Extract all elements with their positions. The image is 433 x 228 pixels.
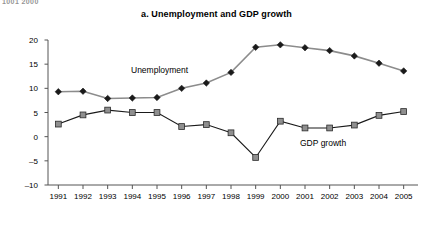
x-tick-label-1991: 1991 xyxy=(49,192,67,201)
x-tick-label-2004: 2004 xyxy=(370,192,388,201)
data-point-1995 xyxy=(154,110,160,116)
x-axis-tick-labels: 1991199219931994199519961997199819992000… xyxy=(48,192,418,206)
data-point-1997 xyxy=(203,80,209,86)
x-tick-label-2005: 2005 xyxy=(395,192,413,201)
x-tick-label-1999: 1999 xyxy=(247,192,265,201)
x-tick-label-1998: 1998 xyxy=(222,192,240,201)
y-tick-label-0: 0 xyxy=(34,132,38,141)
series-label-gdp-growth: GDP growth xyxy=(300,138,346,148)
data-point-2003 xyxy=(351,53,357,59)
data-point-2001 xyxy=(302,125,308,131)
data-point-1993 xyxy=(105,107,111,113)
data-point-1998 xyxy=(228,130,234,136)
data-point-2004 xyxy=(376,113,382,119)
data-point-2005 xyxy=(400,68,406,74)
plot-area xyxy=(48,40,418,185)
data-point-2002 xyxy=(326,47,332,53)
chart-title: a. Unemployment and GDP growth xyxy=(0,9,433,19)
data-point-2002 xyxy=(327,125,333,131)
data-point-1992 xyxy=(80,112,86,118)
data-point-1995 xyxy=(154,94,160,100)
data-point-1993 xyxy=(104,95,110,101)
data-point-1992 xyxy=(80,88,86,94)
y-tick-label--5: –5 xyxy=(29,156,38,165)
chart-figure: 1001 2000 a. Unemployment and GDP growth… xyxy=(0,0,433,228)
x-tick-label-1996: 1996 xyxy=(173,192,191,201)
data-point-2001 xyxy=(302,45,308,51)
data-point-2000 xyxy=(277,42,283,48)
y-axis-tick-labels: 20151050–5–10 xyxy=(14,40,38,185)
data-point-1991 xyxy=(55,89,61,95)
data-point-1994 xyxy=(129,95,135,101)
series-label-unemployment: Unemployment xyxy=(131,65,188,75)
data-point-1996 xyxy=(178,85,184,91)
data-point-1996 xyxy=(179,124,185,130)
data-point-2005 xyxy=(401,109,407,115)
x-tick-label-2001: 2001 xyxy=(296,192,314,201)
data-point-1999 xyxy=(253,155,259,161)
y-tick-label-15: 15 xyxy=(29,60,38,69)
x-tick-label-2000: 2000 xyxy=(271,192,289,201)
x-tick-label-2003: 2003 xyxy=(345,192,363,201)
data-point-2003 xyxy=(351,122,357,128)
y-tick-label--10: –10 xyxy=(25,181,38,190)
series-gdp-growth xyxy=(55,107,406,160)
x-tick-label-1992: 1992 xyxy=(74,192,92,201)
x-tick-label-1997: 1997 xyxy=(197,192,215,201)
data-point-1994 xyxy=(129,110,135,116)
x-tick-label-1994: 1994 xyxy=(123,192,141,201)
chart-canvas xyxy=(48,40,418,185)
y-tick-label-5: 5 xyxy=(34,108,38,117)
y-tick-label-10: 10 xyxy=(29,84,38,93)
data-point-2004 xyxy=(376,60,382,66)
x-tick-label-1993: 1993 xyxy=(99,192,117,201)
y-tick-label-20: 20 xyxy=(29,36,38,45)
x-tick-label-1995: 1995 xyxy=(148,192,166,201)
data-point-1997 xyxy=(203,122,209,128)
series-unemployment xyxy=(55,42,407,102)
axis-lines xyxy=(48,40,418,185)
clipped-page-header: 1001 2000 xyxy=(2,0,39,5)
data-point-2000 xyxy=(277,118,283,124)
x-tick-label-2002: 2002 xyxy=(321,192,339,201)
data-point-1991 xyxy=(55,121,61,127)
